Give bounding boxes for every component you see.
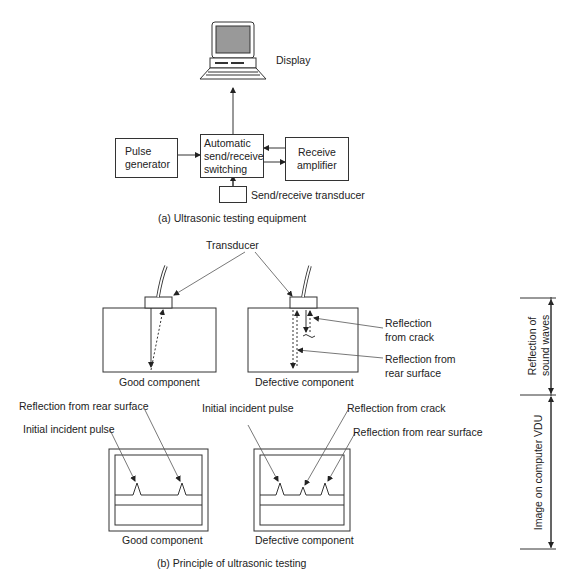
good-screen-reflection-rear-label: Reflection from rear surface: [19, 400, 149, 412]
side-label-reflection-line1: Reflection of: [526, 316, 538, 376]
caption-b: (b) Principle of ultrasonic testing: [157, 557, 306, 569]
side-label-reflection-line2: sound waves: [539, 316, 551, 376]
good-component-label: Good component: [119, 376, 200, 388]
reflection-rear-line2: rear surface: [385, 367, 441, 379]
switching-line2: send/receive: [204, 150, 264, 163]
diagram-lines: [0, 0, 579, 583]
pulse-generator-line2: generator: [125, 158, 170, 171]
transducer-label: Transducer: [206, 239, 259, 251]
reflection-crack-line2: from crack: [385, 331, 434, 343]
defective-screen-reflection-crack-label: Reflection from crack: [347, 402, 446, 414]
good-screen-label: Good component: [122, 534, 203, 546]
send-receive-transducer-label: Send/receive transducer: [251, 189, 365, 201]
pulse-generator-box: Pulse generator: [115, 138, 178, 178]
display-label: Display: [276, 54, 310, 66]
reflection-rear-line1: Reflection from: [385, 353, 456, 365]
receive-amplifier-line2: amplifier: [297, 159, 337, 172]
send-receive-transducer-box: [219, 186, 247, 203]
side-label-vdu: Image on computer VDU: [532, 410, 544, 535]
defective-component-label: Defective component: [255, 376, 354, 388]
switching-box: Automatic send/receive switching: [200, 134, 264, 178]
reflection-crack-line1: Reflection: [385, 317, 432, 329]
caption-a: (a) Ultrasonic testing equipment: [158, 212, 306, 224]
defective-screen-reflection-rear-label: Reflection from rear surface: [353, 426, 483, 438]
pulse-generator-line1: Pulse: [125, 145, 151, 158]
receive-amplifier-line1: Receive: [298, 146, 336, 159]
computer-display-icon: [200, 22, 266, 79]
receive-amplifier-box: Receive amplifier: [285, 137, 349, 181]
defective-screen-initial-pulse-label: Initial incident pulse: [202, 402, 294, 414]
switching-line1: Automatic: [204, 137, 251, 150]
good-screen-initial-pulse-label: Initial incident pulse: [23, 423, 115, 435]
defective-screen-label: Defective component: [255, 534, 354, 546]
switching-line3: switching: [204, 163, 247, 176]
